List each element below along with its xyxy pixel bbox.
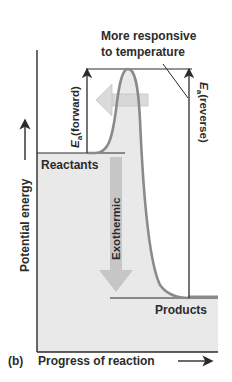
energy-diagram: More responsive to temperature Ea(forwar…	[0, 0, 232, 382]
panel-label: (b)	[8, 354, 23, 368]
annotation-line-2: to temperature	[101, 45, 185, 59]
x-axis-label: Progress of reaction	[38, 354, 155, 368]
products-label: Products	[155, 303, 207, 317]
exothermic-label: Exothermic	[110, 197, 122, 260]
annotation-line-1: More responsive	[101, 29, 197, 43]
y-axis-label: Potential energy	[18, 178, 32, 272]
ea-forward-label: Ea(forward)	[69, 86, 84, 148]
reactants-label: Reactants	[41, 158, 99, 172]
ea-reverse-label: Ea(reverse)	[195, 82, 210, 143]
